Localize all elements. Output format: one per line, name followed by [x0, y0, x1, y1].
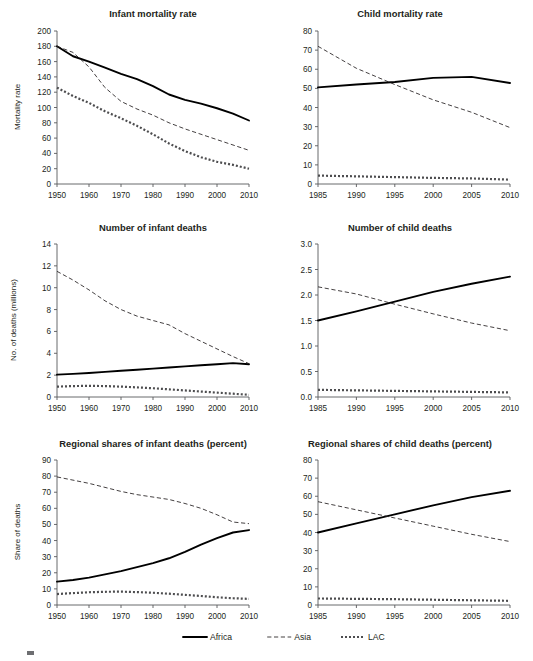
- y-tick-label-regional-shares-infant-deaths-2: 20: [42, 569, 52, 578]
- y-tick-label-number-of-child-deaths-0: 0.0: [301, 393, 313, 402]
- y-tick-label-regional-shares-child-deaths-0: 0: [307, 601, 312, 610]
- y-tick-label-infant-mortality-rate-4: 80: [42, 119, 52, 128]
- x-tick-label-infant-mortality-rate-2: 1970: [112, 191, 131, 200]
- y-tick-label-child-mortality-rate-6: 60: [303, 65, 313, 74]
- legend-label-africa: Africa: [210, 632, 232, 642]
- y-tick-label-regional-shares-child-deaths-3: 30: [303, 547, 313, 556]
- y-tick-label-number-of-infant-deaths-1: 2: [46, 371, 51, 380]
- y-tick-label-regional-shares-infant-deaths-7: 70: [42, 488, 52, 497]
- x-tick-label-regional-shares-infant-deaths-0: 1950: [48, 612, 67, 621]
- x-tick-label-number-of-child-deaths-4: 2005: [462, 404, 481, 413]
- x-tick-label-number-of-child-deaths-0: 1985: [309, 404, 328, 413]
- y-tick-label-regional-shares-child-deaths-7: 70: [303, 474, 313, 483]
- x-tick-label-number-of-infant-deaths-6: 2010: [240, 404, 259, 413]
- x-tick-label-number-of-infant-deaths-5: 2000: [208, 404, 227, 413]
- y-tick-label-child-mortality-rate-7: 70: [303, 46, 313, 55]
- y-tick-label-regional-shares-infant-deaths-3: 30: [42, 553, 52, 562]
- y-tick-label-infant-mortality-rate-8: 160: [37, 58, 51, 67]
- x-tick-label-child-mortality-rate-5: 2010: [501, 191, 520, 200]
- x-tick-label-regional-shares-infant-deaths-2: 1970: [112, 612, 131, 621]
- y-tick-label-regional-shares-infant-deaths-6: 60: [42, 504, 52, 513]
- y-axis-label-regional-shares-infant-deaths: Share of deaths: [13, 504, 22, 560]
- x-tick-label-child-mortality-rate-3: 2000: [424, 191, 443, 200]
- panel-title-regional-shares-child-deaths: Regional shares of child deaths (percent…: [308, 438, 492, 449]
- y-tick-label-regional-shares-child-deaths-6: 60: [303, 492, 313, 501]
- x-tick-label-regional-shares-child-deaths-1: 1990: [347, 612, 366, 621]
- y-tick-label-infant-mortality-rate-3: 60: [42, 134, 52, 143]
- y-tick-label-infant-mortality-rate-1: 20: [42, 165, 52, 174]
- y-tick-label-regional-shares-child-deaths-2: 20: [303, 565, 313, 574]
- x-tick-label-regional-shares-infant-deaths-5: 2000: [208, 612, 227, 621]
- x-tick-label-regional-shares-child-deaths-5: 2010: [501, 612, 520, 621]
- x-tick-label-regional-shares-infant-deaths-1: 1960: [80, 612, 99, 621]
- y-tick-label-number-of-infant-deaths-5: 10: [42, 284, 52, 293]
- y-tick-label-regional-shares-infant-deaths-4: 40: [42, 537, 52, 546]
- x-tick-label-infant-mortality-rate-6: 2010: [240, 191, 259, 200]
- y-tick-label-infant-mortality-rate-5: 100: [37, 104, 51, 113]
- legend-label-asia: Asia: [294, 632, 311, 642]
- y-tick-label-number-of-child-deaths-3: 1.5: [301, 317, 313, 326]
- y-tick-label-child-mortality-rate-3: 30: [303, 123, 313, 132]
- y-tick-label-child-mortality-rate-8: 80: [303, 27, 313, 36]
- y-tick-label-number-of-infant-deaths-3: 6: [46, 327, 51, 336]
- x-tick-label-number-of-infant-deaths-0: 1950: [48, 404, 67, 413]
- panel-title-number-of-child-deaths: Number of child deaths: [348, 222, 452, 233]
- x-tick-label-number-of-child-deaths-1: 1990: [347, 404, 366, 413]
- x-tick-label-regional-shares-child-deaths-3: 2000: [424, 612, 443, 621]
- page-corner-mark: [27, 651, 34, 655]
- y-tick-label-number-of-infant-deaths-2: 4: [46, 349, 51, 358]
- panel-title-child-mortality-rate: Child mortality rate: [357, 8, 442, 19]
- x-tick-label-number-of-child-deaths-3: 2000: [424, 404, 443, 413]
- y-tick-label-child-mortality-rate-1: 10: [303, 161, 313, 170]
- y-tick-label-number-of-infant-deaths-0: 0: [46, 393, 51, 402]
- x-tick-label-infant-mortality-rate-3: 1980: [144, 191, 163, 200]
- x-tick-label-infant-mortality-rate-1: 1960: [80, 191, 99, 200]
- x-tick-label-infant-mortality-rate-5: 2000: [208, 191, 227, 200]
- y-axis-label-infant-mortality-rate: Mortality rate: [13, 83, 22, 130]
- y-tick-label-regional-shares-child-deaths-8: 80: [303, 456, 313, 465]
- y-tick-label-regional-shares-infant-deaths-8: 80: [42, 472, 52, 481]
- y-tick-label-number-of-infant-deaths-6: 12: [42, 262, 52, 271]
- y-tick-label-regional-shares-infant-deaths-5: 50: [42, 520, 52, 529]
- y-tick-label-infant-mortality-rate-6: 120: [37, 88, 51, 97]
- y-tick-label-infant-mortality-rate-2: 40: [42, 149, 52, 158]
- y-tick-label-number-of-infant-deaths-7: 14: [42, 240, 52, 249]
- x-tick-label-regional-shares-child-deaths-4: 2005: [462, 612, 481, 621]
- x-tick-label-regional-shares-infant-deaths-6: 2010: [240, 612, 259, 621]
- y-tick-label-regional-shares-infant-deaths-0: 0: [46, 601, 51, 610]
- y-tick-label-number-of-child-deaths-4: 2.0: [301, 291, 313, 300]
- x-tick-label-regional-shares-infant-deaths-4: 1990: [176, 612, 195, 621]
- y-tick-label-child-mortality-rate-4: 40: [303, 104, 313, 113]
- y-tick-label-number-of-infant-deaths-4: 8: [46, 306, 51, 315]
- x-tick-label-number-of-infant-deaths-1: 1960: [80, 404, 99, 413]
- x-tick-label-number-of-child-deaths-5: 2010: [501, 404, 520, 413]
- y-tick-label-number-of-child-deaths-5: 2.5: [301, 266, 313, 275]
- y-tick-label-regional-shares-child-deaths-4: 40: [303, 529, 313, 538]
- y-tick-label-regional-shares-infant-deaths-1: 10: [42, 585, 52, 594]
- y-tick-label-regional-shares-child-deaths-5: 50: [303, 510, 313, 519]
- y-tick-label-number-of-child-deaths-1: 0.5: [301, 368, 313, 377]
- x-tick-label-number-of-infant-deaths-4: 1990: [176, 404, 195, 413]
- y-tick-label-number-of-child-deaths-2: 1.0: [301, 342, 313, 351]
- y-tick-label-child-mortality-rate-2: 20: [303, 142, 313, 151]
- y-tick-label-child-mortality-rate-0: 0: [307, 180, 312, 189]
- y-tick-label-child-mortality-rate-5: 50: [303, 84, 313, 93]
- x-tick-label-number-of-infant-deaths-2: 1970: [112, 404, 131, 413]
- x-tick-label-infant-mortality-rate-0: 1950: [48, 191, 67, 200]
- legend-label-lac: LAC: [368, 632, 385, 642]
- x-tick-label-regional-shares-child-deaths-2: 1995: [386, 612, 405, 621]
- y-tick-label-regional-shares-child-deaths-1: 10: [303, 583, 313, 592]
- panel-title-regional-shares-infant-deaths: Regional shares of infant deaths (percen…: [59, 438, 247, 449]
- x-tick-label-child-mortality-rate-4: 2005: [462, 191, 481, 200]
- panel-title-number-of-infant-deaths: Number of infant deaths: [99, 222, 207, 233]
- y-axis-label-number-of-infant-deaths: No. of deaths (millions): [9, 279, 18, 361]
- x-tick-label-number-of-infant-deaths-3: 1980: [144, 404, 163, 413]
- y-tick-label-regional-shares-infant-deaths-9: 90: [42, 456, 52, 465]
- y-tick-label-infant-mortality-rate-9: 180: [37, 42, 51, 51]
- x-tick-label-child-mortality-rate-0: 1985: [309, 191, 328, 200]
- panel-title-infant-mortality-rate: Infant mortality rate: [109, 8, 197, 19]
- x-tick-label-regional-shares-child-deaths-0: 1985: [309, 612, 328, 621]
- x-tick-label-number-of-child-deaths-2: 1995: [386, 404, 405, 413]
- y-tick-label-infant-mortality-rate-7: 140: [37, 73, 51, 82]
- x-tick-label-child-mortality-rate-2: 1995: [386, 191, 405, 200]
